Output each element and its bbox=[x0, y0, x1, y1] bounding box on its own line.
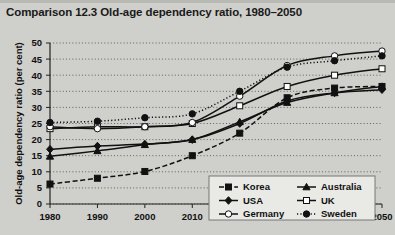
y-axis-title-text: Old-age dependency ratio (per cent) bbox=[13, 42, 24, 205]
data-point-marker bbox=[379, 53, 385, 59]
chart-legend[interactable]: KoreaAustraliaUSAUKGermanySweden bbox=[209, 176, 375, 220]
y-tick-label: 30 bbox=[31, 102, 42, 113]
data-point-marker bbox=[94, 118, 100, 124]
legend-label: Sweden bbox=[321, 208, 357, 219]
data-point-marker bbox=[284, 64, 290, 70]
y-tick-label: 10 bbox=[31, 166, 42, 177]
y-axis-tick-labels: 05101520253035404550 bbox=[31, 37, 42, 209]
data-point-marker bbox=[331, 58, 337, 64]
x-tick-label: 1980 bbox=[39, 211, 60, 222]
y-tick-label: 45 bbox=[31, 54, 42, 65]
chart-canvas: 05101520253035404550 1980199020002010202… bbox=[0, 24, 395, 235]
data-point-marker bbox=[332, 72, 338, 78]
y-tick-label: 15 bbox=[31, 150, 42, 161]
data-point-marker bbox=[237, 88, 243, 94]
y-tick-label: 40 bbox=[31, 70, 42, 81]
legend-label: USA bbox=[243, 195, 263, 206]
y-tick-label: 25 bbox=[31, 118, 42, 129]
top-divider bbox=[0, 0, 395, 3]
x-tick-label: 2010 bbox=[182, 211, 203, 222]
legend-label: Korea bbox=[243, 181, 271, 192]
data-point-marker bbox=[189, 119, 195, 125]
data-point-marker bbox=[142, 168, 148, 174]
x-tick-label: 1990 bbox=[87, 211, 108, 222]
y-tick-label: 0 bbox=[37, 198, 42, 209]
series-korea bbox=[47, 83, 385, 187]
y-tick-label: 5 bbox=[37, 182, 43, 193]
data-point-marker bbox=[94, 175, 100, 181]
y-axis-title: Old-age dependency ratio (per cent) bbox=[13, 42, 24, 205]
line-chart-figure: 05101520253035404550 1980199020002010202… bbox=[0, 24, 395, 235]
data-point-marker bbox=[237, 103, 243, 109]
data-point-marker bbox=[225, 211, 231, 217]
data-point-marker bbox=[189, 111, 195, 117]
data-point-marker bbox=[237, 130, 243, 136]
data-point-marker bbox=[303, 211, 309, 217]
data-point-marker bbox=[379, 66, 385, 72]
data-point-marker bbox=[47, 119, 53, 125]
data-series bbox=[46, 48, 385, 187]
data-point-marker bbox=[284, 83, 290, 89]
data-point-marker bbox=[226, 184, 232, 190]
y-tick-label: 35 bbox=[31, 86, 42, 97]
y-tick-label: 50 bbox=[31, 37, 42, 48]
data-point-marker bbox=[47, 145, 54, 153]
legend-label: Germany bbox=[243, 208, 285, 219]
data-point-marker bbox=[142, 115, 148, 121]
legend-label: Australia bbox=[321, 181, 362, 192]
series-line bbox=[50, 86, 382, 184]
data-point-marker bbox=[94, 125, 100, 131]
data-point-marker bbox=[304, 198, 310, 204]
x-tick-label: 2000 bbox=[134, 211, 155, 222]
data-point-marker bbox=[189, 153, 195, 159]
y-tick-label: 20 bbox=[31, 134, 42, 145]
data-point-marker bbox=[47, 181, 53, 187]
data-point-marker bbox=[142, 124, 148, 130]
data-point-marker bbox=[94, 142, 101, 150]
legend-label: UK bbox=[321, 195, 335, 206]
chart-title: Comparison 12.3 Old-age dependency ratio… bbox=[6, 6, 302, 18]
